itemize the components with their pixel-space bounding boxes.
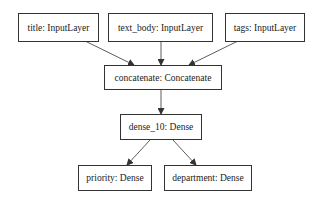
node-label: department: Dense — [172, 173, 244, 183]
model-diagram: title: InputLayer text_body: InputLayer … — [0, 0, 320, 201]
node-text-body-input: text_body: InputLayer — [108, 13, 213, 42]
node-label: priority: Dense — [86, 173, 143, 183]
node-title-input: title: InputLayer — [18, 13, 99, 42]
edge-tags-concatenate — [189, 40, 240, 65]
edge-title-concatenate — [83, 40, 134, 65]
node-concatenate: concatenate: Concatenate — [104, 65, 222, 90]
edge-dense-priority — [127, 140, 150, 165]
node-department: department: Dense — [164, 165, 252, 191]
node-tags-input: tags: InputLayer — [225, 13, 305, 42]
node-label: tags: InputLayer — [234, 23, 297, 33]
node-label: text_body: InputLayer — [118, 23, 203, 33]
node-label: dense_10: Dense — [129, 122, 194, 132]
node-label: title: InputLayer — [28, 23, 90, 33]
node-priority: priority: Dense — [78, 165, 152, 191]
edge-dense-department — [173, 140, 196, 165]
node-label: concatenate: Concatenate — [115, 73, 212, 83]
node-dense-10: dense_10: Dense — [120, 114, 202, 140]
